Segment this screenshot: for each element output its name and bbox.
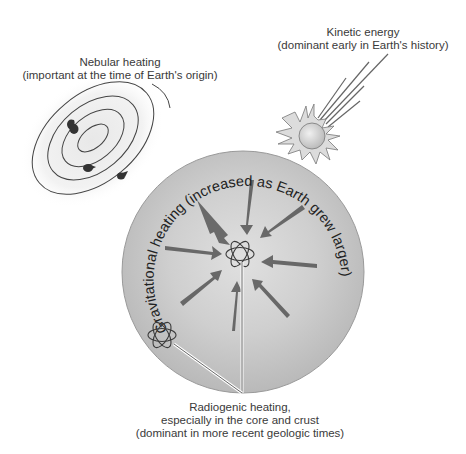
nebular-title: Nebular heating — [20, 56, 220, 69]
radiogenic-line-3: (dominant in more recent geologic times) — [110, 427, 370, 440]
meteor — [276, 54, 388, 164]
radiogenic-heating-label: Radiogenic heating, especially in the co… — [110, 401, 370, 440]
nebular-heating-label: Nebular heating (important at the time o… — [20, 56, 220, 82]
kinetic-energy-label: Kinetic energy (dominant early in Earth'… — [255, 26, 466, 52]
radiogenic-line-2: especially in the core and crust — [110, 414, 370, 427]
particle — [70, 124, 79, 134]
nebular-note: (important at the time of Earth's origin… — [20, 69, 220, 82]
meteor-streaks — [318, 54, 388, 127]
radiogenic-line-1: Radiogenic heating, — [110, 401, 370, 414]
kinetic-title: Kinetic energy — [255, 26, 466, 39]
kinetic-note: (dominant early in Earth's history) — [255, 39, 466, 52]
meteor-body — [299, 123, 325, 149]
